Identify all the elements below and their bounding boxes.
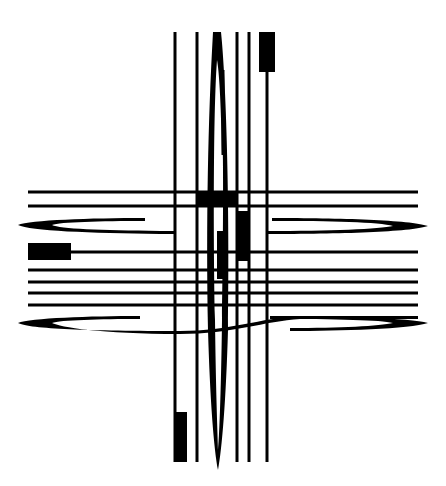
center-vertical-block-right bbox=[237, 211, 249, 261]
abstract-line-diagram bbox=[0, 0, 446, 486]
left-block bbox=[28, 243, 71, 260]
center-horizontal-block bbox=[196, 191, 237, 207]
top-right-block bbox=[259, 32, 275, 72]
bottom-left-block bbox=[174, 412, 187, 462]
right-loop-upper bbox=[267, 218, 428, 234]
center-vertical-block-left bbox=[217, 231, 225, 279]
left-loop-upper bbox=[18, 218, 175, 234]
